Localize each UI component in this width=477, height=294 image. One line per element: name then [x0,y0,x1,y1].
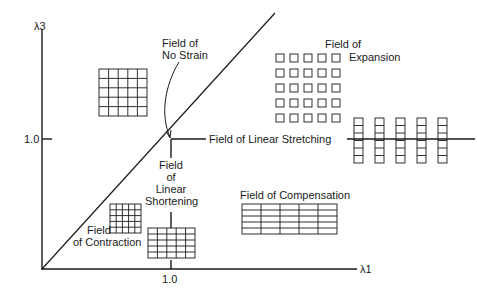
y-tick-label: 1.0 [24,133,39,145]
linear-stretching-label: Field of Linear Stretching [209,133,331,145]
x-axis-label: λ1 [360,263,372,275]
undeformed-grid [99,69,147,116]
expansion-label-line1: Field of [325,38,361,50]
no-strain-label: Field of No Strain [162,37,208,61]
x-tick-label: 1.0 [162,273,177,285]
linear-shortening-label: Field of Linear Shortening [145,159,197,207]
strain-field-diagram [0,0,477,294]
contraction-label-line1: Field [87,224,111,236]
contraction-grid [110,204,141,233]
y-axis-label: λ3 [34,20,46,32]
expansion-label-line2: Expansion [349,51,400,63]
compensation-label: Field of Compensation [240,189,350,201]
compensation-grid [242,204,337,234]
shortening-grid [148,228,195,258]
stretching-columns [354,118,447,163]
contraction-label-line2: of Contraction [73,236,141,248]
expansion-grid [276,54,340,122]
